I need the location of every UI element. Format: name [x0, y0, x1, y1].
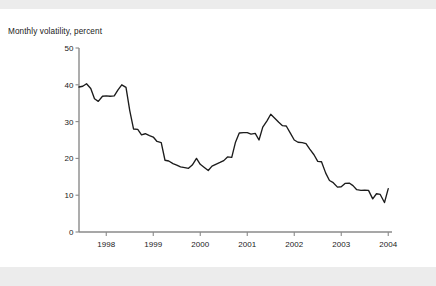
x-tick-label: 1998 [97, 240, 115, 249]
y-tick-label: 10 [65, 191, 74, 200]
volatility-series-line [79, 84, 388, 203]
x-tick-label: 2001 [238, 240, 256, 249]
x-tick-label: 2000 [191, 240, 209, 249]
x-tick-label: 1999 [144, 240, 162, 249]
x-tick-label: 2002 [285, 240, 303, 249]
y-tick-label: 40 [65, 81, 74, 90]
y-axis-ticks: 01020304050 [65, 44, 79, 237]
y-tick-label: 30 [65, 118, 74, 127]
y-tick-label: 50 [65, 44, 74, 53]
y-tick-label: 20 [65, 154, 74, 163]
volatility-line-chart: 01020304050 1998199920002001200220032004 [0, 0, 436, 286]
x-tick-label: 2004 [379, 240, 397, 249]
y-tick-label: 0 [69, 228, 74, 237]
x-tick-label: 2003 [332, 240, 350, 249]
x-axis-ticks: 1998199920002001200220032004 [97, 232, 397, 249]
chart-figure: Monthly volatility, percent 01020304050 … [0, 0, 436, 286]
